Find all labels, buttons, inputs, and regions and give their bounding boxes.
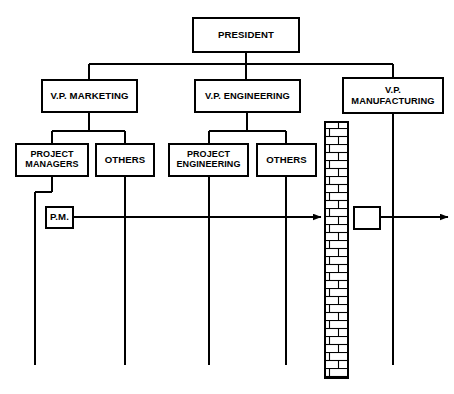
node-others-marketing[interactable]: OTHERS [95,143,155,177]
node-others-engineering-label: OTHERS [258,155,315,165]
org-chart-diagram: PRESIDENT V.P. MARKETING V.P. ENGINEERIN… [0,0,454,394]
node-others-marketing-label: OTHERS [97,155,153,165]
node-project-manager-pm[interactable]: P.M. [45,206,74,229]
brick-wall [325,122,348,378]
node-vp-manufacturing-label: V.P. MANUFACTURING [344,85,442,105]
node-project-engineering[interactable]: PROJECT ENGINEERING [168,143,249,177]
node-manufacturing-target[interactable] [353,206,381,230]
node-project-engineering-label: PROJECT ENGINEERING [170,150,247,169]
node-project-manager-pm-label: P.M. [47,212,72,222]
node-vp-engineering[interactable]: V.P. ENGINEERING [194,79,301,113]
node-others-engineering[interactable]: OTHERS [256,143,317,177]
node-vp-marketing-label: V.P. MARKETING [43,91,136,101]
node-vp-marketing[interactable]: V.P. MARKETING [41,79,138,113]
node-project-managers[interactable]: PROJECT MANAGERS [15,143,89,177]
marketing-subtree-connectors [52,113,125,143]
president-distribution-connectors [89,53,393,79]
connector-lines-layer [0,0,454,394]
node-president[interactable]: PRESIDENT [192,17,300,53]
node-president-label: PRESIDENT [194,30,298,40]
node-project-managers-label: PROJECT MANAGERS [17,150,87,169]
node-vp-engineering-label: V.P. ENGINEERING [196,91,299,101]
engineering-subtree-connectors [209,113,286,143]
node-vp-manufacturing[interactable]: V.P. MANUFACTURING [342,77,444,114]
